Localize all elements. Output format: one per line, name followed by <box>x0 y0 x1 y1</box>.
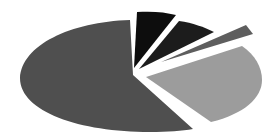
exploded-pie-chart <box>0 0 279 139</box>
